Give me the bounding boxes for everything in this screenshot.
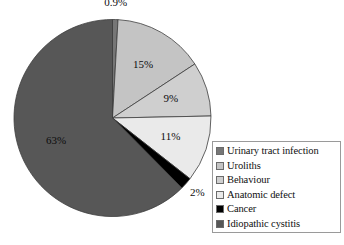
pie-chart-figure: 0.9%15%9%11%2%63% Urinary tract infectio… bbox=[0, 0, 344, 245]
legend-item-label: Urinary tract infection bbox=[227, 144, 319, 159]
pie-data-label: 9% bbox=[163, 92, 178, 104]
pie-data-label: 15% bbox=[133, 58, 153, 70]
legend-item-label: Anatomic defect bbox=[227, 188, 295, 203]
pie-data-label: 11% bbox=[161, 130, 181, 142]
pie-data-label: 2% bbox=[190, 186, 205, 198]
legend-item-cancer[interactable]: Cancer bbox=[216, 202, 338, 217]
pie-data-label: 63% bbox=[46, 134, 66, 146]
legend-item-urinary-tract-infection[interactable]: Urinary tract infection bbox=[216, 144, 338, 159]
legend-swatch-icon bbox=[216, 220, 224, 228]
legend-item-label: Behaviour bbox=[227, 173, 270, 188]
pie-slice-group bbox=[14, 19, 211, 216]
legend-item-label: Uroliths bbox=[227, 159, 261, 174]
legend-item-behaviour[interactable]: Behaviour bbox=[216, 173, 338, 188]
legend-swatch-icon bbox=[216, 147, 224, 155]
legend-item-anatomic-defect[interactable]: Anatomic defect bbox=[216, 188, 338, 203]
legend-item-idiopathic-cystitis[interactable]: Idiopathic cystitis bbox=[216, 217, 338, 232]
legend-swatch-icon bbox=[216, 176, 224, 184]
legend-item-label: Cancer bbox=[227, 202, 256, 217]
pie-data-label: 0.9% bbox=[104, 0, 127, 8]
chart-legend: Urinary tract infection Uroliths Behavio… bbox=[212, 141, 341, 233]
legend-item-uroliths[interactable]: Uroliths bbox=[216, 159, 338, 174]
legend-swatch-icon bbox=[216, 162, 224, 170]
legend-item-label: Idiopathic cystitis bbox=[227, 217, 300, 232]
legend-swatch-icon bbox=[216, 205, 224, 213]
legend-swatch-icon bbox=[216, 191, 224, 199]
